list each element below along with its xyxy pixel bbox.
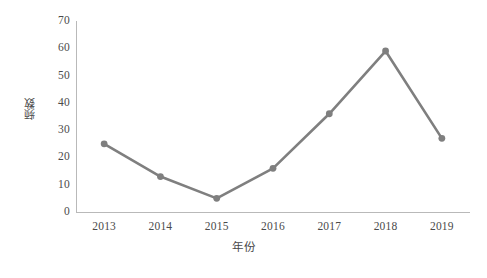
data-point-marker xyxy=(101,140,108,147)
data-series-layer xyxy=(0,0,487,278)
data-point-marker xyxy=(438,135,445,142)
data-point-marker xyxy=(157,173,164,180)
data-point-marker xyxy=(326,110,333,117)
data-point-marker xyxy=(270,165,277,172)
data-point-marker xyxy=(213,195,220,202)
line-chart: 010203040506070 201320142015201620172018… xyxy=(0,0,487,278)
series-line xyxy=(104,51,442,198)
data-point-marker xyxy=(382,48,389,55)
